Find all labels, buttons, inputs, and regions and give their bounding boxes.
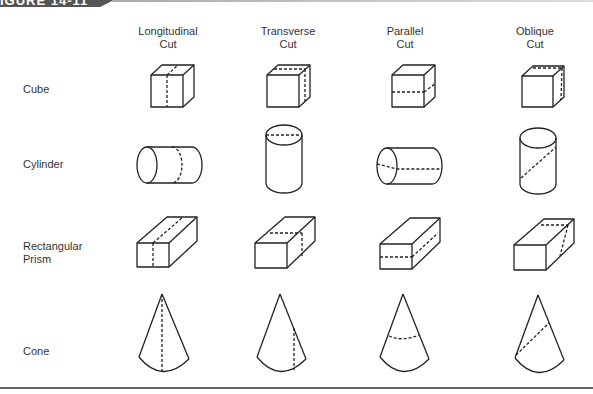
shapes-canvas: [0, 0, 593, 394]
prism-longitudinal-cut-icon: [137, 217, 197, 267]
cube-longitudinal-cut-icon: [151, 65, 194, 107]
cylinder-oblique-cut-icon: [520, 128, 556, 194]
bottom-rule: [0, 387, 593, 389]
cone-parallel-cut-icon: [380, 294, 429, 372]
prism-oblique-cut-icon: [514, 219, 574, 270]
cylinder-parallel-cut-icon: [377, 148, 442, 184]
cube-parallel-cut-icon: [392, 65, 435, 107]
prism-transverse-cut-icon: [255, 217, 315, 268]
cube-transverse-cut-icon: [267, 65, 310, 107]
cube-oblique-cut-icon: [522, 66, 564, 107]
cylinder-longitudinal-cut-icon: [137, 147, 202, 183]
cone-transverse-cut-icon: [257, 294, 306, 372]
prism-parallel-cut-icon: [380, 218, 440, 269]
cylinder-transverse-cut-icon: [266, 125, 302, 193]
cone-oblique-cut-icon: [515, 295, 564, 373]
cone-longitudinal-cut-icon: [139, 294, 189, 372]
